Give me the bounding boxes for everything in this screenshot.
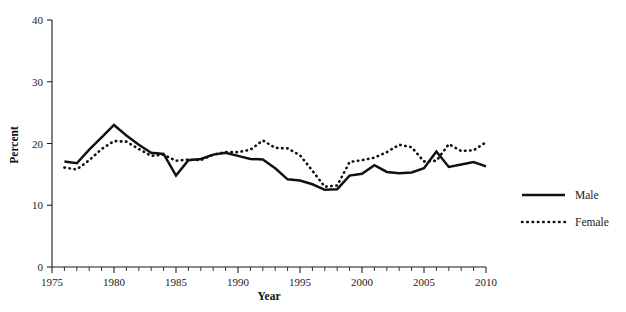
y-tick-label: 10 — [32, 199, 44, 211]
y-tick-label: 40 — [32, 14, 44, 26]
line-chart: 010203040 197519801985199019952000200520… — [0, 0, 626, 312]
legend-label-female: Female — [575, 216, 609, 228]
y-tick-label: 0 — [38, 261, 44, 273]
y-axis-title: Percent — [8, 126, 20, 164]
legend: Male Female — [522, 189, 609, 228]
x-minor-tick-group — [64, 267, 473, 271]
x-tick-label: 1995 — [289, 276, 312, 288]
x-tick-label: 1985 — [165, 276, 188, 288]
y-tick-label: 30 — [32, 76, 44, 88]
y-tick-group: 010203040 — [32, 14, 52, 273]
chart-container: 010203040 197519801985199019952000200520… — [0, 0, 626, 312]
x-axis-title: Year — [258, 290, 281, 302]
x-tick-group: 19751980198519901995200020052010 — [41, 267, 498, 288]
series-line-female — [64, 140, 486, 186]
legend-label-male: Male — [575, 189, 599, 201]
x-axis: 19751980198519901995200020052010 — [41, 267, 498, 288]
x-tick-label: 1975 — [41, 276, 64, 288]
y-tick-label: 20 — [32, 138, 44, 150]
x-tick-label: 1980 — [103, 276, 126, 288]
x-tick-label: 1990 — [227, 276, 250, 288]
x-tick-label: 2005 — [413, 276, 436, 288]
series-line-male — [64, 125, 486, 190]
y-axis: 010203040 — [32, 14, 52, 273]
x-tick-label: 2010 — [475, 276, 498, 288]
plot-area — [64, 125, 486, 190]
x-tick-label: 2000 — [351, 276, 374, 288]
